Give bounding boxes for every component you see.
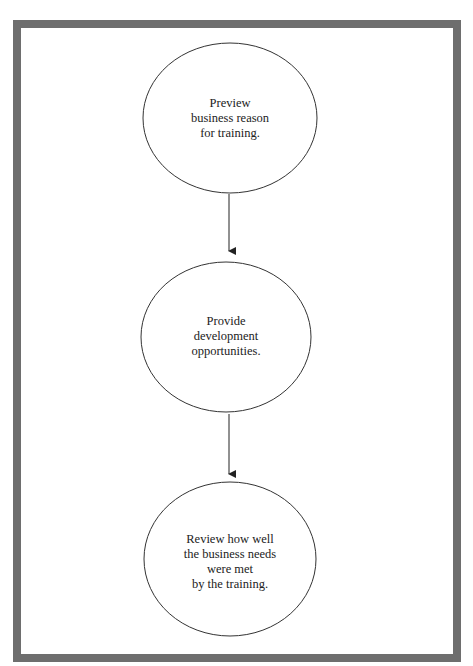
text-line: Preview [145, 96, 315, 111]
text-line: Provide [141, 314, 311, 329]
text-line: the business needs [145, 547, 315, 562]
node-review-label: Review how well the business needs were … [145, 532, 315, 592]
text-line: were met [145, 562, 315, 577]
node-provide-label: Provide development opportunities. [141, 314, 311, 359]
text-line: opportunities. [141, 344, 311, 359]
text-line: by the training. [145, 577, 315, 592]
text-line: for training. [145, 126, 315, 141]
text-line: business reason [145, 111, 315, 126]
text-line: development [141, 329, 311, 344]
node-preview-label: Preview business reason for training. [145, 96, 315, 141]
text-line: Review how well [145, 532, 315, 547]
